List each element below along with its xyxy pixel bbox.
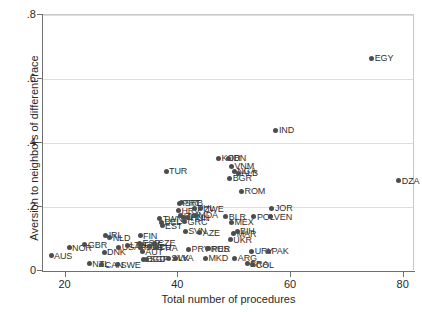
data-point-label-TUR: TUR: [169, 166, 187, 176]
data-point-label-SWE: SWE: [121, 260, 141, 270]
x-tick-mark: [403, 272, 404, 277]
data-point-BLR: [223, 214, 228, 219]
data-point-label-PAK: PAK: [272, 246, 289, 256]
data-point-BGR: [227, 176, 232, 181]
data-point-URY: [249, 249, 254, 254]
x-tick-label-60: 60: [284, 278, 296, 290]
data-point-TUR: [164, 169, 169, 174]
data-point-label-VEN: VEN: [274, 212, 292, 222]
data-point-NZL: [87, 261, 92, 266]
data-point-label-GBR: GBR: [88, 240, 107, 250]
data-point-label-ZWE: ZWE: [204, 204, 224, 214]
y-axis-line: [42, 14, 43, 272]
data-point-LVA: [173, 256, 178, 261]
data-point-label-LVA: LVA: [178, 253, 193, 263]
data-point-label-COL: COL: [256, 260, 274, 270]
y-tick-mark: [37, 270, 42, 271]
y-tick-mark: [37, 14, 42, 15]
x-tick-label-20: 20: [58, 278, 70, 290]
data-point-KOR: [216, 156, 221, 161]
data-point-PHL: [192, 206, 197, 211]
data-point-SVK: [166, 256, 171, 261]
data-point-label-AUS: AUS: [54, 251, 72, 261]
data-point-label-BLR: BLR: [229, 212, 246, 222]
data-point-label-BEL: BEL: [164, 217, 181, 227]
data-point-BIH: [235, 229, 240, 234]
x-axis-title: Total number of procedures: [42, 293, 415, 305]
data-point-AUS: [49, 253, 54, 258]
gridline-y-.6: [42, 79, 413, 80]
data-point-SVN: [183, 229, 188, 234]
data-point-IDN: [226, 156, 231, 161]
data-point-LTU: [125, 243, 130, 248]
data-point-EGY: [369, 56, 374, 61]
gridline-y-.4: [42, 143, 413, 144]
data-point-BEL: [159, 220, 164, 225]
data-point-UKR: [228, 237, 233, 242]
plot-area: AUSNORGBRNZLCANDNKIRLNLDSWEUSALTUFINESPC…: [42, 14, 414, 270]
data-point-USA: [116, 245, 121, 250]
data-point-label-EGY: EGY: [375, 53, 394, 63]
data-point-PAK: [266, 249, 271, 254]
data-point-DNK: [102, 250, 107, 255]
data-point-label-IND: IND: [279, 125, 294, 135]
data-point-label-AZE: AZE: [203, 228, 220, 238]
data-point-VNM: [229, 164, 234, 169]
data-point-label-NLD: NLD: [113, 233, 131, 243]
data-point-IND: [273, 128, 278, 133]
x-axis-line: [42, 271, 415, 272]
y-axis-title: Aversion to neighbors of different race: [28, 38, 40, 258]
x-tick-label-80: 80: [397, 278, 409, 290]
scatter-plot-figure: AUSNORGBRNZLCANDNKIRLNLDSWEUSALTUFINESPC…: [0, 0, 422, 312]
x-tick-mark: [65, 272, 66, 277]
data-point-JOR: [269, 206, 274, 211]
x-tick-mark: [290, 272, 291, 277]
data-point-label-ROM: ROM: [245, 186, 266, 196]
x-tick-label-40: 40: [171, 278, 183, 290]
data-point-label-UKR: UKR: [233, 235, 252, 245]
gridline-y-.8: [42, 15, 413, 16]
data-point-PRY: [186, 247, 191, 252]
gridline-y-.2: [42, 207, 413, 208]
data-point-AUT: [140, 249, 145, 254]
x-tick-mark: [177, 272, 178, 277]
data-point-ROM: [239, 189, 244, 194]
data-point-NOR: [67, 245, 72, 250]
data-point-label-BGR: BGR: [233, 173, 252, 183]
data-point-label-FRA: FRA: [160, 243, 178, 253]
y-tick-label-0: 0: [0, 264, 36, 276]
data-point-POL: [251, 214, 256, 219]
data-point-label-PER: PER: [212, 244, 230, 254]
data-point-label-DZA: DZA: [402, 176, 420, 186]
data-point-MKD: [203, 256, 208, 261]
data-point-DZA: [396, 178, 401, 183]
data-point-BRA: [245, 261, 250, 266]
data-point-label-MKD: MKD: [208, 253, 228, 263]
data-point-ARG: [232, 256, 237, 261]
data-point-MDA: [193, 213, 198, 218]
y-tick-label-.8: .8: [0, 8, 36, 20]
